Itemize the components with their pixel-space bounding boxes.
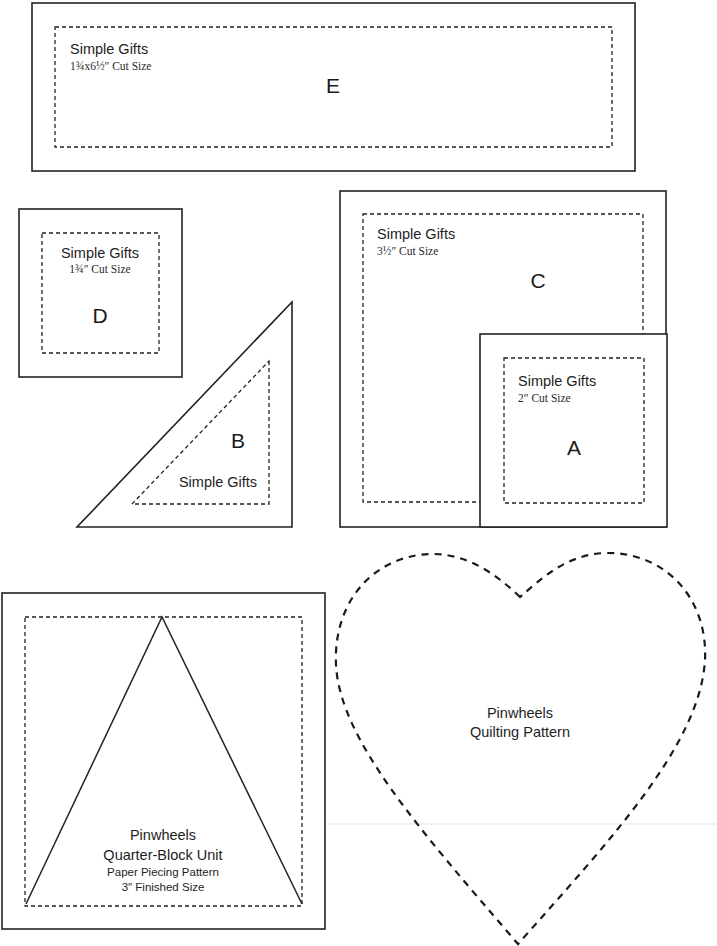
pattern-sheet: Simple Gifts 1¾x6½″ Cut Size E Simple Gi… [0,0,717,946]
template-c-letter: C [530,269,545,292]
template-b-title: Simple Gifts [179,474,257,490]
heart-dashed-outline [336,553,705,944]
heart-line2: Quilting Pattern [470,724,570,740]
template-a-title: Simple Gifts [518,373,596,389]
pinwheel-unit-line4: 3″ Finished Size [122,881,205,893]
template-e-size: 1¾x6½″ Cut Size [70,60,151,72]
template-d-letter: D [92,304,107,327]
template-a-letter: A [567,436,581,459]
template-d-cut-outline [19,209,182,377]
pinwheel-quarter-block-unit: Pinwheels Quarter-Block Unit Paper Pieci… [2,593,325,929]
template-d-size: 1¾″ Cut Size [69,263,130,275]
heart-line1: Pinwheels [487,705,553,721]
pinwheel-unit-line1: Pinwheels [130,827,196,843]
pinwheel-unit-line3: Paper Piecing Pattern [107,866,219,878]
template-c-title: Simple Gifts [377,226,455,242]
template-a: Simple Gifts 2″ Cut Size A [480,334,667,527]
template-a-cut-outline [480,334,667,527]
template-e-letter: E [326,74,340,97]
pinwheel-unit-cut-outline [2,593,325,929]
template-d-title: Simple Gifts [61,245,139,261]
template-d: Simple Gifts 1¾″ Cut Size D [19,209,182,377]
template-e: Simple Gifts 1¾x6½″ Cut Size E [32,3,635,171]
template-c-size: 3½″ Cut Size [377,245,438,257]
pinwheel-unit-line2: Quarter-Block Unit [103,847,222,863]
template-b-letter: B [231,429,245,452]
heart-quilting-pattern: Pinwheels Quilting Pattern [336,553,705,944]
template-e-title: Simple Gifts [70,41,148,57]
template-a-size: 2″ Cut Size [518,392,571,404]
